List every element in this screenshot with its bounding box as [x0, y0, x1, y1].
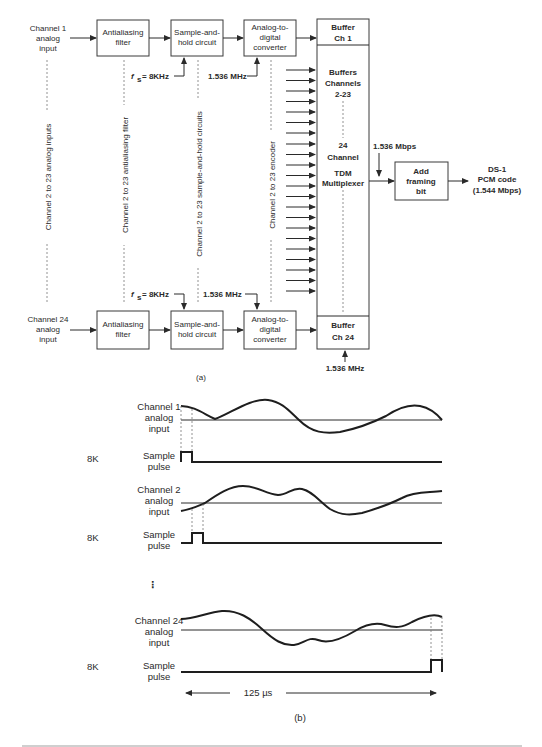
adc-1: Analog-to- digital converter	[244, 20, 296, 56]
svg-text:Channel 24: Channel 24	[28, 315, 69, 324]
svg-text:digital: digital	[260, 325, 281, 334]
svg-text:digital: digital	[260, 33, 281, 42]
svg-text:f: f	[131, 290, 135, 299]
channel-1-analog-label: Channel 1 analog input	[137, 401, 180, 434]
svg-text:framing: framing	[406, 177, 435, 186]
channel-ellipsis: ⋮	[148, 579, 158, 590]
rate-8k-1: 8K	[87, 453, 99, 464]
svg-text:input: input	[149, 637, 170, 648]
svg-text:1.536 MHz: 1.536 MHz	[326, 364, 365, 373]
svg-text:PCM code: PCM code	[478, 175, 517, 184]
svg-text:pulse: pulse	[148, 540, 171, 551]
svg-text:Sample-and-: Sample-and-	[174, 320, 220, 329]
frame-duration: 125 µs	[186, 687, 436, 698]
sample-hold-circuit-1: Sample-and- hold circuit	[171, 20, 223, 56]
vertical-label-encoder: Channel 2 to 23 encoder	[264, 60, 278, 304]
rate-8k-2: 8K	[87, 532, 99, 543]
vertical-label-filters: Channel 2 to 23 antialiasing filter	[117, 60, 131, 304]
sample-hold-circuit-24: Sample-and- hold circuit	[171, 311, 223, 349]
svg-text:Sample: Sample	[143, 450, 175, 461]
channel-2-analog-label: Channel 2 analog input	[137, 484, 180, 517]
ds1-output-label: DS-1 PCM code (1.544 Mbps)	[473, 165, 522, 195]
svg-text:= 8KHz: = 8KHz	[142, 72, 169, 81]
adc-clock-24: 1.536 MHz	[203, 290, 257, 309]
svg-text:hold circuit: hold circuit	[178, 38, 217, 47]
sample-pulse-2	[181, 533, 442, 543]
svg-text:Sample-and-: Sample-and-	[174, 28, 220, 37]
adc-24: Analog-to- digital converter	[244, 311, 296, 349]
svg-text:input: input	[149, 423, 170, 434]
antialiasing-filter-24: Antialiasing filter	[97, 311, 149, 349]
encoder-output-arrows	[286, 70, 315, 291]
svg-text:Buffer: Buffer	[331, 23, 355, 32]
figure-b-label: (b)	[294, 712, 306, 723]
svg-text:Sample: Sample	[143, 660, 175, 671]
svg-text:Add: Add	[413, 167, 429, 176]
svg-text:Analog-to-: Analog-to-	[252, 23, 289, 32]
vertical-label-sample-hold: Channel 2 to 23 sample-and-hold circuits	[191, 60, 205, 304]
svg-text:Ch 1: Ch 1	[334, 34, 352, 43]
svg-text:Channel 1: Channel 1	[137, 401, 180, 412]
svg-text:analog: analog	[36, 325, 60, 334]
svg-text:Buffer: Buffer	[331, 321, 355, 330]
svg-text:converter: converter	[253, 335, 287, 344]
svg-text:= 8KHz: = 8KHz	[142, 290, 169, 299]
figure-a-label: (a)	[196, 373, 206, 382]
add-framing-bit: Add framing bit	[395, 162, 448, 200]
sample-pulse-24	[181, 660, 442, 672]
svg-text:hold circuit: hold circuit	[178, 330, 217, 339]
svg-text:2-23: 2-23	[335, 90, 352, 99]
buffer-clock-24: 1.536 MHz	[326, 351, 365, 373]
svg-text:TDM: TDM	[334, 169, 352, 178]
channel-24-waveform	[181, 611, 442, 645]
sample-pulse-1	[181, 452, 442, 462]
svg-text:analog: analog	[145, 626, 174, 637]
svg-text:125 µs: 125 µs	[244, 687, 273, 698]
svg-text:pulse: pulse	[148, 461, 171, 472]
channel-2-waveform	[181, 486, 442, 514]
sample-pulse-24-label: Sample pulse	[143, 660, 175, 682]
vertical-label-inputs: Channel 2 to 23 analog inputs	[40, 60, 54, 304]
svg-text:analog: analog	[145, 412, 174, 423]
svg-text:Channel 2 to 23 encoder: Channel 2 to 23 encoder	[268, 141, 277, 229]
svg-text:1.536 MHz: 1.536 MHz	[208, 72, 247, 81]
adc-clock-1: 1.536 MHz	[208, 58, 257, 81]
svg-text:Channel 2 to 23 analog inputs: Channel 2 to 23 analog inputs	[44, 124, 53, 230]
rate-8k-24: 8K	[87, 661, 99, 672]
sampling-frequency-1: f s = 8KHz	[131, 58, 184, 84]
svg-text:analog: analog	[36, 34, 60, 43]
svg-text:Buffers: Buffers	[329, 68, 358, 77]
svg-text:input: input	[39, 44, 57, 53]
sample-pulse-1-label: Sample pulse	[143, 450, 175, 472]
block-diagram-a: Channel 1 analog input Antialiasing filt…	[28, 19, 522, 382]
channel-1-waveform	[181, 400, 442, 433]
svg-text:Channel 2 to 23 sample-and-hol: Channel 2 to 23 sample-and-hold circuits	[195, 111, 204, 256]
svg-text:analog: analog	[145, 495, 174, 506]
svg-text:f: f	[131, 72, 135, 81]
svg-text:1.536 MHz: 1.536 MHz	[203, 290, 242, 299]
tdm-diagram: Channel 1 analog input Antialiasing filt…	[0, 0, 542, 747]
svg-text:converter: converter	[253, 43, 287, 52]
tdm-multiplexer: Buffer Ch 1 Buffers Channels 2-23 24 Cha…	[317, 19, 369, 349]
svg-text:Channel 24: Channel 24	[135, 615, 184, 626]
svg-text:DS-1: DS-1	[488, 165, 507, 174]
svg-text:Antialiasing: Antialiasing	[103, 320, 144, 329]
svg-text:24: 24	[339, 141, 348, 150]
svg-text:bit: bit	[416, 187, 426, 196]
svg-text:Sample: Sample	[143, 529, 175, 540]
svg-text:filter: filter	[115, 38, 130, 47]
channel-24-input-label: Channel 24 analog input	[28, 315, 69, 344]
channel-24-analog-label: Channel 24 analog input	[135, 615, 184, 648]
svg-text:Channel: Channel	[327, 153, 359, 162]
svg-text:Channel 2 to 23 antialiasing f: Channel 2 to 23 antialiasing filter	[121, 117, 130, 233]
svg-text:pulse: pulse	[148, 671, 171, 682]
antialiasing-filter-1: Antialiasing filter	[97, 20, 149, 56]
svg-text:Antialiasing: Antialiasing	[103, 28, 144, 37]
svg-text:Channel 1: Channel 1	[30, 24, 67, 33]
svg-text:Analog-to-: Analog-to-	[252, 315, 289, 324]
sampling-frequency-24: f s = 8KHz	[131, 290, 184, 309]
svg-text:Ch 24: Ch 24	[332, 333, 354, 342]
svg-text:(1.544 Mbps): (1.544 Mbps)	[473, 186, 522, 195]
svg-text:filter: filter	[115, 330, 130, 339]
svg-text:input: input	[39, 335, 57, 344]
